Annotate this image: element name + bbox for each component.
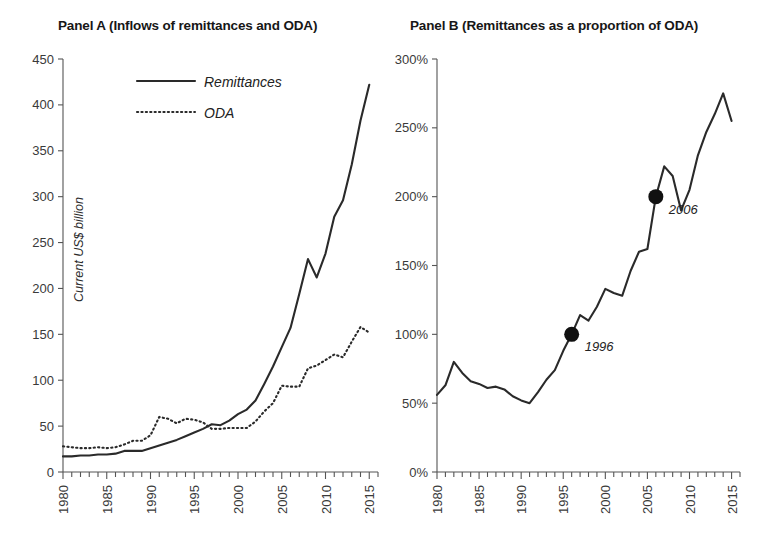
data-point-marker (564, 327, 579, 342)
x-tick-label: 1980 (430, 485, 445, 514)
data-point-label: 1996 (585, 339, 615, 354)
x-tick-label: 1990 (144, 485, 159, 514)
x-tick-label: 2015 (362, 485, 377, 514)
series-line-solid (63, 85, 369, 457)
x-tick-label: 2010 (683, 485, 698, 514)
y-tick-label: 350 (32, 143, 54, 158)
y-tick-label: 250 (32, 235, 54, 250)
x-tick-label: 2000 (231, 485, 246, 514)
y-tick-label: 100% (395, 327, 429, 342)
data-point-marker (648, 189, 663, 204)
y-tick-label: 0 (47, 465, 54, 480)
x-tick-label: 1990 (514, 485, 529, 514)
figure-container: Panel A (Inflows of remittances and ODA)… (0, 0, 757, 548)
x-tick-label: 1985 (100, 485, 115, 514)
y-tick-label: 300 (32, 189, 54, 204)
y-tick-label: 50% (402, 396, 428, 411)
x-tick-label: 2005 (275, 485, 290, 514)
x-tick-label: 1995 (187, 485, 202, 514)
x-tick-label: 2000 (598, 485, 613, 514)
y-tick-label: 200 (32, 281, 54, 296)
data-point-label: 2006 (668, 202, 699, 217)
series-line-dotted (63, 327, 369, 448)
y-tick-label: 250% (395, 120, 429, 135)
panel-a-chart: 0501001502002503003504004501980198519901… (0, 0, 395, 548)
y-tick-label: 150 (32, 327, 54, 342)
x-tick-label: 1985 (472, 485, 487, 514)
x-tick-label: 1980 (56, 485, 71, 514)
y-tick-label: 300% (395, 52, 429, 67)
y-tick-label: 450 (32, 52, 54, 67)
y-tick-label: 400 (32, 97, 54, 112)
legend-label: Remittances (204, 74, 282, 90)
x-tick-label: 1995 (556, 485, 571, 514)
y-axis-title: Current US$ billion (72, 197, 86, 302)
series-line-solid (437, 93, 732, 403)
x-tick-label: 2010 (319, 485, 334, 514)
y-tick-label: 0% (409, 465, 428, 480)
y-tick-label: 200% (395, 189, 429, 204)
y-tick-label: 100 (32, 373, 54, 388)
x-tick-label: 2005 (640, 485, 655, 514)
y-tick-label: 50 (40, 419, 54, 434)
y-tick-label: 150% (395, 258, 429, 273)
legend-label: ODA (204, 105, 234, 121)
panel-b-chart: 0%50%100%150%200%250%300%198019851990199… (385, 0, 757, 548)
x-tick-label: 2015 (725, 485, 740, 514)
panel-b: Panel B (Remittances as a proportion of … (385, 0, 757, 548)
panel-a: Panel A (Inflows of remittances and ODA)… (0, 0, 395, 548)
